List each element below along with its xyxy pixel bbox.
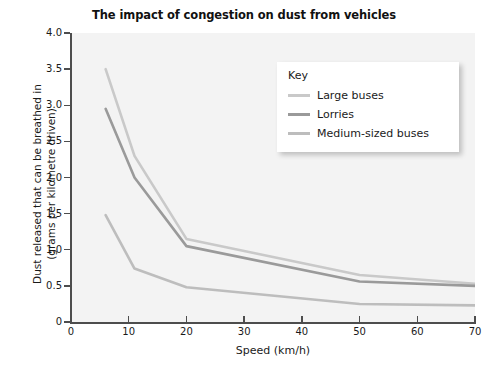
legend-swatch-large-buses [288,94,310,97]
x-tick-mark [417,316,418,322]
x-tick-label: 50 [340,326,380,337]
y-axis-title-line1: Dust released that can be breathed in [30,39,44,329]
y-tick-mark [64,177,70,178]
chart-title: The impact of congestion on dust from ve… [0,8,488,22]
x-tick-mark [128,316,129,322]
x-tick-label: 30 [224,326,264,337]
y-tick-mark [64,249,70,250]
y-axis-title-line2: (grams per kilometre driven) [44,39,58,329]
x-tick-label: 40 [282,326,322,337]
legend-title: Key [288,69,450,82]
x-tick-label: 70 [455,326,488,337]
x-tick-mark [243,316,244,322]
y-tick-mark [64,68,70,69]
y-axis-line [70,33,72,323]
y-tick-label: 4.0 [32,28,62,38]
y-tick-mark [64,321,70,322]
y-tick-mark [64,213,70,214]
legend: Key Large buses Lorries Medium-sized bus… [277,62,459,152]
x-tick-label: 60 [397,326,437,337]
x-axis-line [70,322,476,324]
legend-label-large-buses: Large buses [317,89,384,102]
x-tick-mark [70,316,71,322]
y-tick-mark [64,105,70,106]
x-tick-mark [301,316,302,322]
legend-item-medium-sized-buses: Medium-sized buses [288,124,450,143]
legend-label-lorries: Lorries [317,108,354,121]
legend-item-large-buses: Large buses [288,86,450,105]
y-tick-mark [64,141,70,142]
legend-swatch-medium-sized-buses [288,132,310,135]
legend-swatch-lorries [288,113,310,116]
legend-item-lorries: Lorries [288,105,450,124]
x-tick-label: 10 [109,326,149,337]
y-tick-mark [64,285,70,286]
legend-label-medium-sized-buses: Medium-sized buses [317,127,429,140]
x-tick-mark [474,316,475,322]
x-tick-label: 20 [166,326,206,337]
y-axis-title: Dust released that can be breathed in (g… [30,39,58,329]
y-tick-mark [64,32,70,33]
x-axis-title: Speed (km/h) [71,344,475,357]
x-tick-mark [359,316,360,322]
x-tick-mark [186,316,187,322]
chart-figure: The impact of congestion on dust from ve… [0,0,488,378]
